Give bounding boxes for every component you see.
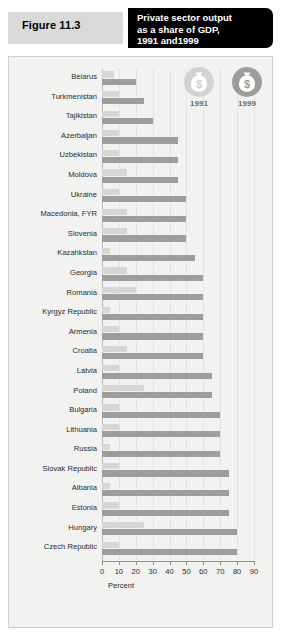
- bar-group: [102, 90, 254, 108]
- bar-row: Russia: [9, 441, 274, 461]
- x-tick: [254, 561, 255, 565]
- bar-1991: [102, 228, 127, 234]
- bar-group: [102, 403, 254, 421]
- bar-row: Latvia: [9, 363, 274, 383]
- bar-1991: [102, 542, 119, 548]
- bar-1991: [102, 424, 119, 430]
- bar-row: Macedonia, FYR: [9, 206, 274, 226]
- bar-1999: [102, 177, 178, 183]
- category-label: Moldova: [68, 170, 97, 179]
- plot-area: $ 1991 $ 1999: [9, 57, 274, 629]
- bar-group: [102, 266, 254, 284]
- x-tick: [153, 561, 154, 565]
- bar-row: Georgia: [9, 265, 274, 285]
- bar-row: Hungary: [9, 520, 274, 540]
- x-tick: [203, 561, 204, 565]
- category-label: Ukraine: [71, 190, 97, 199]
- bar-row: Belarus: [9, 69, 274, 89]
- category-label: Bulgaria: [69, 405, 97, 414]
- bar-1991: [102, 346, 127, 352]
- bar-1999: [102, 549, 237, 555]
- x-tick: [237, 561, 238, 565]
- bar-row: Moldova: [9, 167, 274, 187]
- bar-1999: [102, 529, 237, 535]
- x-tick-label: 10: [115, 567, 123, 576]
- bar-1991: [102, 150, 119, 156]
- category-label: Slovenia: [68, 229, 97, 238]
- category-label: Poland: [73, 386, 97, 395]
- x-axis-line: [102, 561, 254, 562]
- bar-1991: [102, 502, 119, 508]
- bar-1999: [102, 118, 153, 124]
- bar-group: [102, 188, 254, 206]
- category-label: Romania: [67, 288, 97, 297]
- bar-row: Kazahkstan: [9, 245, 274, 265]
- bar-group: [102, 305, 254, 323]
- bar-1991: [102, 111, 119, 117]
- bar-1991: [102, 463, 119, 469]
- bar-1999: [102, 275, 203, 281]
- x-tick-label: 30: [148, 567, 156, 576]
- bar-row: Lithuania: [9, 422, 274, 442]
- bar-1999: [102, 490, 229, 496]
- x-tick-label: 0: [100, 567, 104, 576]
- figure-title-line2: as a share of GDP,: [137, 24, 220, 35]
- category-label: Latvia: [77, 366, 97, 375]
- category-label: Tajikistan: [66, 111, 97, 120]
- bar-row: Croatia: [9, 343, 274, 363]
- x-tick: [170, 561, 171, 565]
- figure-header: Figure 11.3 Private sector output as a s…: [8, 8, 273, 48]
- bar-row: Bulgaria: [9, 402, 274, 422]
- bar-1991: [102, 189, 119, 195]
- figure-title-box: Private sector output as a share of GDP,…: [128, 8, 273, 48]
- x-tick-label: 60: [199, 567, 207, 576]
- bar-1999: [102, 451, 220, 457]
- x-tick-label: 90: [250, 567, 258, 576]
- bar-1991: [102, 444, 110, 450]
- bar-1999: [102, 431, 220, 437]
- bar-1991: [102, 404, 119, 410]
- bar-group: [102, 70, 254, 88]
- bar-1999: [102, 157, 178, 163]
- bar-1999: [102, 412, 220, 418]
- bar-row: Slovak Republic: [9, 461, 274, 481]
- bar-1999: [102, 216, 186, 222]
- bar-1999: [102, 333, 203, 339]
- category-label: Lithuania: [66, 425, 97, 434]
- figure-title: Private sector output as a share of GDP,…: [137, 12, 269, 47]
- x-tick: [136, 561, 137, 565]
- bar-1999: [102, 235, 186, 241]
- bar-1991: [102, 91, 119, 97]
- bar-group: [102, 109, 254, 127]
- bar-group: [102, 207, 254, 225]
- bar-group: [102, 148, 254, 166]
- category-label: Georgia: [70, 268, 97, 277]
- x-tick: [119, 561, 120, 565]
- category-label: Russia: [74, 444, 97, 453]
- figure-container: Figure 11.3 Private sector output as a s…: [0, 0, 281, 636]
- figure-number-label: Figure 11.3: [22, 19, 81, 31]
- bar-group: [102, 325, 254, 343]
- bar-row: Czech Republic: [9, 539, 274, 559]
- bar-1991: [102, 307, 110, 313]
- bar-1999: [102, 79, 136, 85]
- bar-group: [102, 364, 254, 382]
- bar-group: [102, 129, 254, 147]
- bar-row: Turkmenistan: [9, 89, 274, 109]
- bar-group: [102, 168, 254, 186]
- bar-1991: [102, 385, 144, 391]
- bar-1991: [102, 522, 144, 528]
- bar-row: Albania: [9, 480, 274, 500]
- bar-1999: [102, 294, 203, 300]
- bar-1999: [102, 510, 229, 516]
- chart-panel: $ 1991 $ 1999: [8, 56, 273, 628]
- bar-row: Slovenia: [9, 226, 274, 246]
- bar-1999: [102, 373, 212, 379]
- x-tick-label: 50: [182, 567, 190, 576]
- bar-1999: [102, 255, 195, 261]
- bar-rows: BelarusTurkmenistanTajikistanAzerbaijanU…: [9, 69, 274, 559]
- bar-1991: [102, 267, 127, 273]
- category-label: Slovak Republic: [43, 464, 97, 473]
- category-label: Azerbaijan: [61, 131, 97, 140]
- bar-group: [102, 462, 254, 480]
